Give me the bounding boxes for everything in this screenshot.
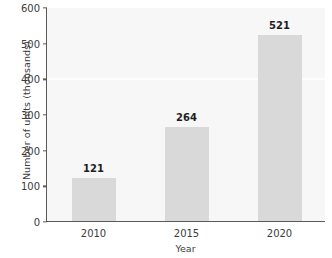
x-axis-title: Year [46,243,325,254]
bar [258,35,302,221]
bar-group: 2642015 [165,8,209,221]
y-axis-tick-label: 500 [21,38,40,49]
x-axis-tick-label: 2010 [81,228,106,239]
y-axis-tick-label: 300 [21,110,40,121]
bar-group: 1212010 [72,8,116,221]
y-axis-tick-label: 100 [21,181,40,192]
bar-value-label: 121 [83,163,104,174]
y-axis-tick-mark [43,114,47,115]
y-axis-tick-mark [43,221,47,222]
bar [72,178,116,221]
y-axis-tick-mark [43,150,47,151]
y-axis-tick-mark [43,186,47,187]
y-axis-tick-mark [43,43,47,44]
y-axis-tick-label: 400 [21,74,40,85]
bar-chart: Number of units (thousands) 600500400300… [0,0,332,258]
y-axis-tick-label: 600 [21,3,40,14]
bar [165,127,209,221]
bar-value-label: 264 [176,112,197,123]
y-axis-tick-label: 0 [34,217,40,228]
y-axis-tick-mark [43,7,47,8]
plot-area: 6005004003002001000 12120102642015521202… [46,8,325,222]
bar-value-label: 521 [269,20,290,31]
x-axis-tick-label: 2020 [267,228,292,239]
y-axis-tick-mark [43,79,47,80]
y-axis-tick-label: 200 [21,145,40,156]
bar-group: 5212020 [258,8,302,221]
x-axis-tick-label: 2015 [174,228,199,239]
